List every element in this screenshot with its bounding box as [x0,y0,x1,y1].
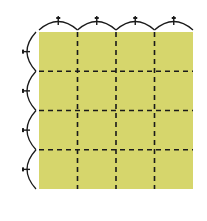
equal-mark-tick-icon [133,17,137,19]
equal-mark-tick-icon [22,50,24,54]
equal-mark-tick-icon [95,17,99,19]
origami-diagram [0,0,207,221]
equal-mark-tick-icon [22,128,24,132]
equal-mark-tick-icon [172,17,176,19]
equal-mark-tick-icon [56,17,60,19]
equal-mark-tick-icon [22,89,24,93]
equal-mark-tick-icon [22,167,24,171]
